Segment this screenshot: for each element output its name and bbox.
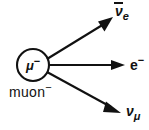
arrow-head (98, 17, 113, 32)
arrow-shaft (47, 24, 104, 59)
source-particle-symbol: μ− (26, 56, 40, 72)
arrow-muon-neutrino (47, 72, 121, 113)
muon-decay-diagram: μ− muon− νe e− νμ (0, 0, 149, 130)
label-anti-electron-neutrino: νe (115, 4, 129, 22)
arrow-anti-electron-neutrino (47, 17, 113, 59)
mu-glyph: μ (26, 58, 34, 73)
subscript-e: e (123, 10, 129, 22)
arrow-electron (49, 60, 125, 70)
label-electron: e− (130, 55, 144, 72)
nu-glyph: ν (115, 4, 123, 18)
label-muon-neutrino: νμ (126, 104, 140, 122)
minus-charge-superscript: − (34, 55, 40, 67)
nu-symbol-text: ν (115, 3, 123, 19)
e-glyph: e (130, 57, 138, 73)
caption-text: muon (9, 84, 45, 100)
minus-charge-superscript: − (45, 81, 52, 93)
antiparticle-overbar (114, 2, 123, 4)
nu-glyph: ν (126, 104, 134, 118)
arrow-shaft (47, 72, 111, 107)
arrow-head (103, 102, 121, 114)
minus-charge-superscript: − (138, 54, 144, 66)
subscript-mu: μ (134, 110, 141, 122)
source-particle-caption: muon− (9, 82, 52, 99)
arrow-head (111, 60, 125, 70)
